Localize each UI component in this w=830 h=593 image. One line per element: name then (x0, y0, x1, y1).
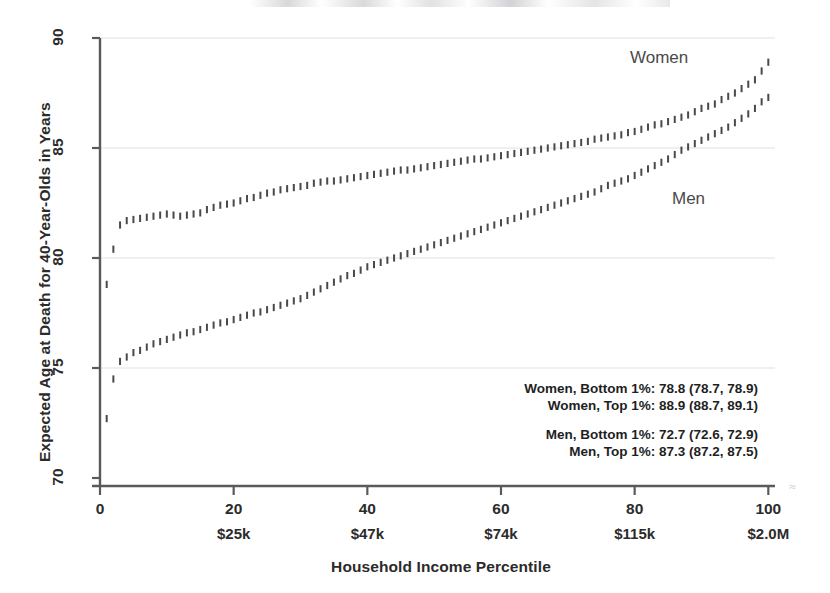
annotation-spacer (380, 414, 758, 427)
x-income-label: $25k (189, 525, 279, 542)
x-tick-label: 20 (199, 500, 269, 518)
x-tick-label: 80 (600, 500, 670, 518)
x-tick-label: 40 (332, 500, 402, 518)
series-label-men: Men (672, 189, 705, 209)
series-label-women: Women (630, 48, 688, 68)
x-income-label: $74k (456, 525, 546, 542)
y-tick-label: 80 (49, 237, 67, 277)
y-tick-label: 70 (49, 457, 67, 497)
annotation-line: Women, Bottom 1%: 78.8 (78.7, 78.9) (380, 381, 758, 398)
y-tick-label: 75 (49, 347, 67, 387)
annotation-line: Men, Bottom 1%: 72.7 (72.6, 72.9) (380, 427, 758, 444)
y-tick-label: 90 (49, 17, 67, 57)
statistics-annotation-block: Women, Bottom 1%: 78.8 (78.7, 78.9)Women… (380, 381, 758, 460)
x-tick-label: 100 (733, 500, 803, 518)
x-income-label: $115k (590, 525, 680, 542)
chart-figure: ≈ Expected Age at Death for 40-Year-Olds… (0, 0, 830, 593)
x-income-label: $2.0M (723, 525, 813, 542)
x-tick-label: 0 (65, 500, 135, 518)
x-axis-title: Household Income Percentile (0, 558, 830, 576)
series-women-points (107, 59, 769, 288)
y-tick-label: 85 (49, 127, 67, 167)
x-income-label: $47k (322, 525, 412, 542)
x-tick-label: 60 (466, 500, 536, 518)
annotation-line: Women, Top 1%: 88.9 (88.7, 89.1) (380, 398, 758, 415)
annotation-line: Men, Top 1%: 87.3 (87.2, 87.5) (380, 444, 758, 461)
